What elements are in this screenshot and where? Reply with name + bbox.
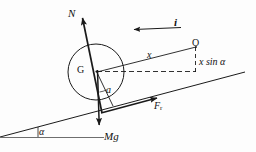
height-component-label: x sin α	[199, 57, 225, 67]
weight-force-arrow	[98, 70, 100, 125]
figure-canvas: N i O x x sin α G a Fr Mg α	[0, 0, 256, 152]
friction-force-subscript: r	[160, 104, 162, 111]
friction-force-label: Fr	[154, 101, 162, 112]
unit-vector-label: i	[174, 17, 177, 28]
inner-angle-label: a	[106, 85, 111, 95]
friction-force-arrow	[101, 98, 157, 113]
incline-angle-label: α	[39, 127, 44, 137]
weight-label: Mg	[104, 131, 119, 142]
normal-force-label: N	[68, 8, 75, 19]
origin-point-label: O	[192, 38, 199, 48]
distance-x-label: x	[147, 50, 151, 60]
center-of-gravity-label: G	[77, 65, 84, 75]
